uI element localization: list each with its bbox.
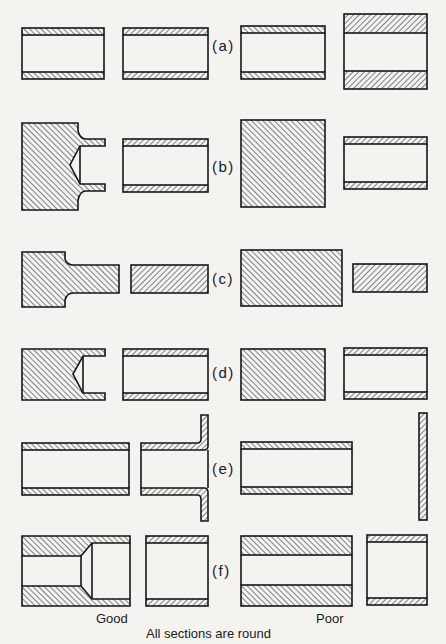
- row-f: (f): [22, 535, 427, 606]
- row-f-good-part-1: [22, 536, 130, 606]
- row-b-good-part-2: [123, 139, 208, 192]
- figure-caption: All sections are round: [146, 626, 271, 641]
- row-a-good-part-1: [22, 28, 104, 79]
- row-b: (b): [22, 120, 427, 210]
- row-b-good-part-1: [22, 123, 105, 210]
- row-d-poor-part-1: [241, 349, 325, 400]
- row-c: (c): [22, 250, 427, 307]
- row-f-label: (f): [212, 562, 231, 579]
- row-f-poor-part-1: [241, 536, 352, 606]
- row-f-good-part-2: [146, 536, 208, 606]
- good-column-label: Good: [96, 611, 128, 626]
- row-a-label: (a): [212, 37, 235, 54]
- row-c-good-part-2: [131, 265, 208, 293]
- row-a: (a): [22, 14, 427, 89]
- row-d: (d): [22, 348, 427, 400]
- row-e-good-part-2: [141, 415, 208, 521]
- row-a-poor-part-2: [344, 14, 427, 89]
- row-c-good-part-1: [22, 252, 119, 307]
- row-d-poor-part-2: [344, 348, 427, 399]
- design-comparison-figure: (a) (b): [0, 0, 446, 644]
- row-b-poor-part-2: [344, 137, 427, 189]
- row-e: (e): [22, 413, 427, 521]
- row-b-poor-part-1: [241, 120, 325, 207]
- row-d-good-part-1: [22, 349, 105, 400]
- row-c-poor-part-1: [241, 250, 342, 306]
- row-e-label: (e): [212, 460, 235, 477]
- row-f-poor-part-2: [367, 535, 427, 605]
- row-e-poor-part-1: [241, 442, 352, 494]
- row-c-poor-part-2: [353, 264, 427, 292]
- row-d-label: (d): [212, 364, 235, 381]
- row-a-poor-part-1: [241, 26, 325, 79]
- poor-column-label: Poor: [316, 611, 344, 626]
- row-a-good-part-2: [123, 28, 208, 79]
- row-e-poor-part-2: [419, 413, 427, 520]
- row-e-good-part-1: [22, 443, 129, 495]
- row-d-good-part-2: [123, 349, 208, 400]
- row-c-label: (c): [212, 270, 234, 287]
- row-b-label: (b): [212, 158, 235, 175]
